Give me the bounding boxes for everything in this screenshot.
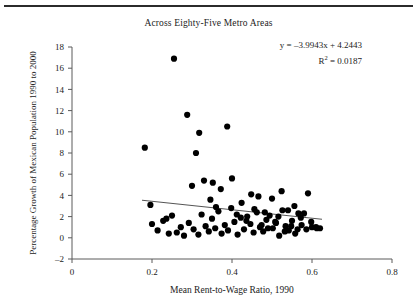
data-point bbox=[279, 188, 285, 194]
data-point bbox=[291, 203, 297, 209]
y-axis-tick-label: 2 bbox=[60, 212, 65, 222]
data-point bbox=[181, 233, 187, 239]
data-point bbox=[313, 224, 319, 230]
data-point bbox=[186, 220, 192, 226]
data-point bbox=[299, 222, 305, 228]
data-point bbox=[212, 225, 218, 231]
data-point bbox=[193, 150, 199, 156]
data-point bbox=[305, 190, 311, 196]
x-axis-tick-label: 0 bbox=[70, 267, 75, 277]
data-point bbox=[189, 183, 195, 189]
data-point bbox=[225, 227, 231, 233]
data-point bbox=[235, 232, 241, 238]
data-point bbox=[171, 56, 177, 62]
data-point bbox=[199, 211, 205, 217]
data-point bbox=[196, 130, 202, 136]
x-axis-tick-label: 0.6 bbox=[306, 267, 318, 277]
data-point bbox=[210, 180, 216, 186]
data-point bbox=[184, 112, 190, 118]
data-point bbox=[215, 208, 221, 214]
data-point bbox=[308, 219, 314, 225]
data-point bbox=[269, 195, 275, 201]
y-axis-tick-label: 10 bbox=[55, 127, 65, 137]
data-point bbox=[191, 226, 197, 232]
data-point bbox=[160, 218, 166, 224]
data-point bbox=[178, 224, 184, 230]
data-point bbox=[255, 193, 261, 199]
data-point bbox=[142, 145, 148, 151]
x-axis-tick-label: 0.8 bbox=[386, 267, 398, 277]
y-axis-tick-label: –2 bbox=[54, 254, 64, 264]
data-point bbox=[285, 207, 291, 213]
data-point bbox=[244, 214, 250, 220]
data-point bbox=[195, 232, 201, 238]
y-axis-tick-label: 6 bbox=[60, 169, 65, 179]
data-point bbox=[238, 215, 244, 221]
data-point bbox=[209, 216, 215, 222]
data-point bbox=[169, 212, 175, 218]
data-point bbox=[295, 210, 301, 216]
data-point bbox=[248, 191, 254, 197]
data-point bbox=[147, 202, 153, 208]
data-point bbox=[228, 205, 234, 211]
data-point bbox=[222, 222, 228, 228]
y-axis-tick-label: 12 bbox=[55, 106, 64, 116]
data-point bbox=[270, 225, 276, 231]
data-point bbox=[260, 228, 266, 234]
data-point bbox=[279, 207, 285, 213]
scatter-plot: –202468101214161800.20.40.60.8 bbox=[0, 0, 417, 308]
data-point bbox=[239, 200, 245, 206]
data-point bbox=[203, 223, 209, 229]
data-point bbox=[286, 227, 292, 233]
data-point bbox=[273, 220, 279, 226]
data-point bbox=[218, 186, 224, 192]
data-point bbox=[276, 233, 282, 239]
data-point bbox=[155, 227, 161, 233]
data-point bbox=[231, 219, 237, 225]
data-point bbox=[254, 209, 260, 215]
y-axis-tick-label: 8 bbox=[60, 148, 65, 158]
data-point bbox=[149, 221, 155, 227]
data-point bbox=[303, 226, 309, 232]
data-point bbox=[206, 228, 212, 234]
data-point bbox=[241, 226, 247, 232]
x-axis-tick-label: 0.4 bbox=[226, 267, 238, 277]
data-point bbox=[292, 230, 298, 236]
data-point bbox=[229, 175, 235, 181]
y-axis-tick-label: 0 bbox=[60, 233, 65, 243]
data-point bbox=[301, 210, 307, 216]
data-point bbox=[289, 218, 295, 224]
data-point bbox=[251, 229, 257, 235]
y-axis-tick-label: 14 bbox=[55, 85, 65, 95]
y-axis-tick-label: 16 bbox=[55, 63, 65, 73]
data-point bbox=[174, 229, 180, 235]
data-point bbox=[207, 197, 213, 203]
data-point bbox=[247, 221, 253, 227]
data-point bbox=[275, 214, 281, 220]
data-point bbox=[224, 123, 230, 129]
data-point bbox=[201, 177, 207, 183]
y-axis-tick-label: 18 bbox=[55, 42, 65, 52]
data-point bbox=[166, 230, 172, 236]
figure-container: Across Eighty-Five Metro Areas y = –3.99… bbox=[0, 0, 417, 308]
data-point bbox=[267, 212, 273, 218]
data-point bbox=[219, 230, 225, 236]
scatter-points bbox=[142, 56, 323, 239]
x-axis-tick-label: 0.2 bbox=[146, 267, 157, 277]
y-axis-tick-label: 4 bbox=[60, 191, 65, 201]
